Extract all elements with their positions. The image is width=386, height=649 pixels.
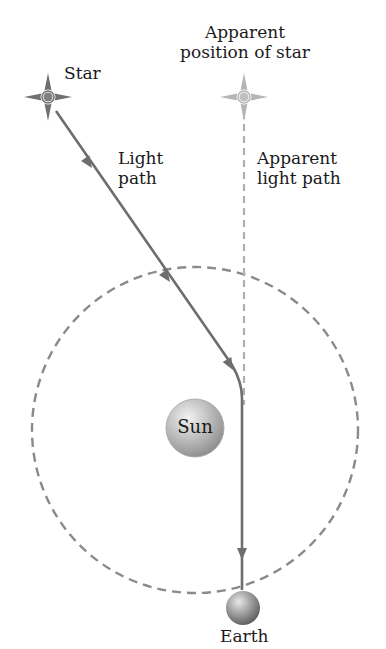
light-path-label: Light path (118, 148, 163, 188)
apparent-light-path-line2: light path (257, 168, 341, 188)
apparent-light-path-line1: Apparent (257, 148, 341, 168)
apparent-star-icon (220, 73, 268, 121)
apparent-position-label: Apparent position of star (175, 22, 315, 62)
light-path-line1: Light (118, 148, 163, 168)
sun-label: Sun (165, 416, 225, 437)
light-path-line2: path (118, 168, 163, 188)
apparent-position-line2: position of star (175, 42, 315, 62)
apparent-position-line1: Apparent (175, 22, 315, 42)
earth-sphere (226, 591, 260, 625)
star-label: Star (64, 63, 101, 83)
arrowhead-icon (237, 548, 247, 560)
diagram-canvas (0, 0, 386, 649)
earth-label: Earth (220, 626, 268, 646)
light-bending-diagram: Star Apparent position of star Light pat… (0, 0, 386, 649)
apparent-light-path-label: Apparent light path (257, 148, 341, 188)
arrowhead-icon (81, 155, 96, 171)
